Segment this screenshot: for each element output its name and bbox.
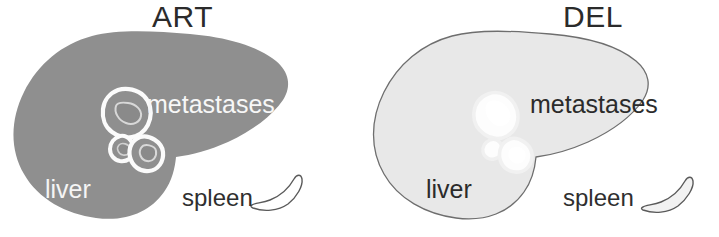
label-spleen-art: spleen [182,186,253,210]
label-metastases-del: metastases [530,92,658,117]
spleen-shape-del [642,177,694,212]
label-liver-del: liver [426,177,472,202]
panel-title-art: ART [152,2,213,32]
label-liver-art: liver [45,177,91,202]
metastasis-lesion-lower-core-art [140,145,156,161]
spleen-shape-art [251,175,302,210]
metastasis-lesion-lower-core-del [509,147,525,163]
label-metastases-art: metastases [147,92,275,117]
panel-del: DEL metastases liver spleen [360,0,719,237]
panel-art: ART metastases liver spleen [0,0,360,237]
label-spleen-del: spleen [563,186,634,210]
del-illustration [360,0,719,237]
panel-title-del: DEL [563,2,623,32]
figure-container: ART metastases liver spleen [0,0,719,237]
